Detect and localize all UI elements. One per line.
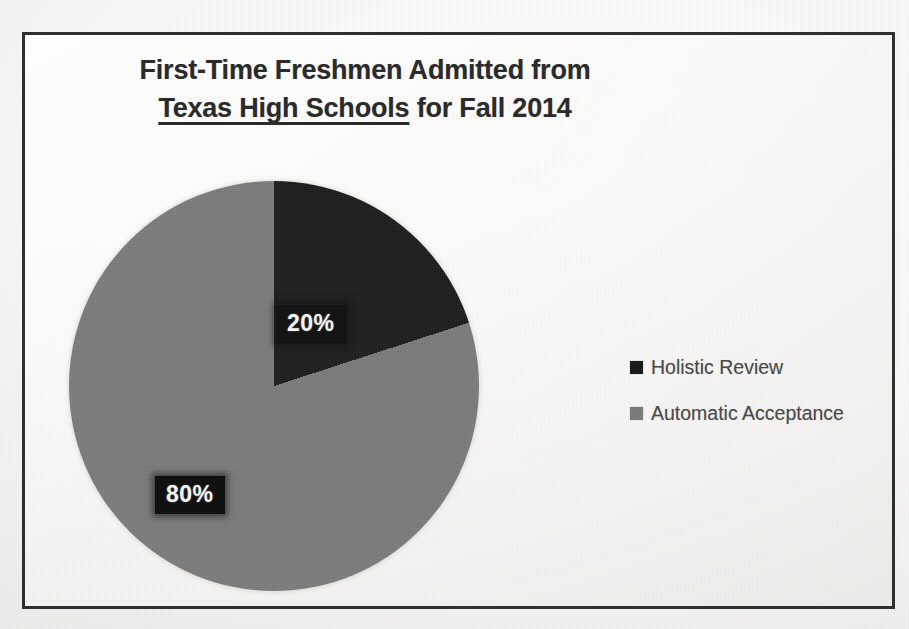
screenshot-root: First-Time Freshmen Admitted from Texas … [0,0,909,629]
pie-surface [69,181,479,591]
pie-data-label-holistic-review: 20% [276,305,346,343]
slide-content: First-Time Freshmen Admitted from Texas … [25,35,892,606]
legend-item-holistic-review: Holistic Review [630,347,892,387]
chart-legend: Holistic Review Automatic Acceptance [630,347,892,439]
chart-title-remainder: for Fall 2014 [409,93,571,123]
chart-title-line-1: First-Time Freshmen Admitted from [65,51,665,89]
chart-title-line-2: Texas High Schools for Fall 2014 [65,89,665,127]
chart-title: First-Time Freshmen Admitted from Texas … [65,51,665,128]
slide-frame: First-Time Freshmen Admitted from Texas … [22,32,895,609]
legend-item-automatic-acceptance: Automatic Acceptance [630,393,892,433]
chart-title-underlined-part: Texas High Schools [158,93,409,123]
legend-swatch-icon-automatic-acceptance [630,407,643,420]
pie-chart [69,181,479,591]
legend-label-automatic-acceptance: Automatic Acceptance [651,402,844,425]
legend-swatch-icon-holistic-review [630,361,643,374]
pie-data-label-automatic-acceptance: 80% [155,476,225,514]
legend-label-holistic-review: Holistic Review [651,356,783,379]
